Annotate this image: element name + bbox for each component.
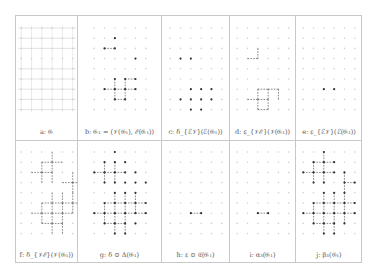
panel-a: a: 𝔊 — [16, 16, 78, 140]
graph-b — [78, 16, 162, 120]
caption-g: g: δ ⊙ Δ(𝔊₁) — [78, 251, 161, 259]
panel-i: i: α₃(𝔊₁) — [230, 140, 296, 263]
caption-d: d: ε_{𝒱ℰ}(𝒱(𝔊₁)) — [230, 128, 295, 136]
graph-g — [78, 140, 162, 244]
caption-a: a: 𝔊 — [16, 128, 77, 136]
graph-i — [230, 140, 296, 244]
graph-e — [296, 16, 362, 120]
graph-a — [16, 16, 78, 120]
caption-h: h: ε ⊙ 𝔈(𝔊₁) — [162, 251, 229, 259]
panel-e: e: ε_{ℰ𝒱}(ℰ(𝔊₁)) — [296, 16, 362, 140]
caption-e: e: ε_{ℰ𝒱}(ℰ(𝔊₁)) — [296, 128, 362, 136]
graph-d — [230, 16, 296, 120]
graph-f — [16, 140, 78, 244]
figure-grid: a: 𝔊 b: 𝔊₁ = (𝒱(𝔊₁), ℰ(𝔊₁)) c: δ_{ℰ𝒱}(ℰ(… — [15, 15, 362, 263]
caption-i: i: α₃(𝔊₁) — [230, 251, 295, 259]
figure-row-top: a: 𝔊 b: 𝔊₁ = (𝒱(𝔊₁), ℰ(𝔊₁)) c: δ_{ℰ𝒱}(ℰ(… — [16, 16, 361, 141]
graph-c — [162, 16, 230, 120]
panel-b: b: 𝔊₁ = (𝒱(𝔊₁), ℰ(𝔊₁)) — [78, 16, 162, 140]
graph-j — [296, 140, 362, 244]
caption-j: j: β₃(𝔊₁) — [296, 251, 362, 259]
panel-h: h: ε ⊙ 𝔈(𝔊₁) — [162, 140, 230, 263]
graph-h — [162, 140, 230, 244]
caption-c: c: δ_{ℰ𝒱}(ℰ(𝔊₁)) — [162, 128, 229, 136]
caption-b: b: 𝔊₁ = (𝒱(𝔊₁), ℰ(𝔊₁)) — [78, 128, 161, 136]
panel-c: c: δ_{ℰ𝒱}(ℰ(𝔊₁)) — [162, 16, 230, 140]
figure-row-bottom: f: δ_{𝒱ℰ}(𝒱(𝔊₁)) g: δ ⊙ Δ(𝔊₁) h: ε ⊙ 𝔈(𝔊… — [16, 140, 361, 263]
panel-f: f: δ_{𝒱ℰ}(𝒱(𝔊₁)) — [16, 140, 78, 263]
caption-f: f: δ_{𝒱ℰ}(𝒱(𝔊₁)) — [16, 251, 77, 259]
panel-d: d: ε_{𝒱ℰ}(𝒱(𝔊₁)) — [230, 16, 296, 140]
panel-g: g: δ ⊙ Δ(𝔊₁) — [78, 140, 162, 263]
panel-j: j: β₃(𝔊₁) — [296, 140, 362, 263]
